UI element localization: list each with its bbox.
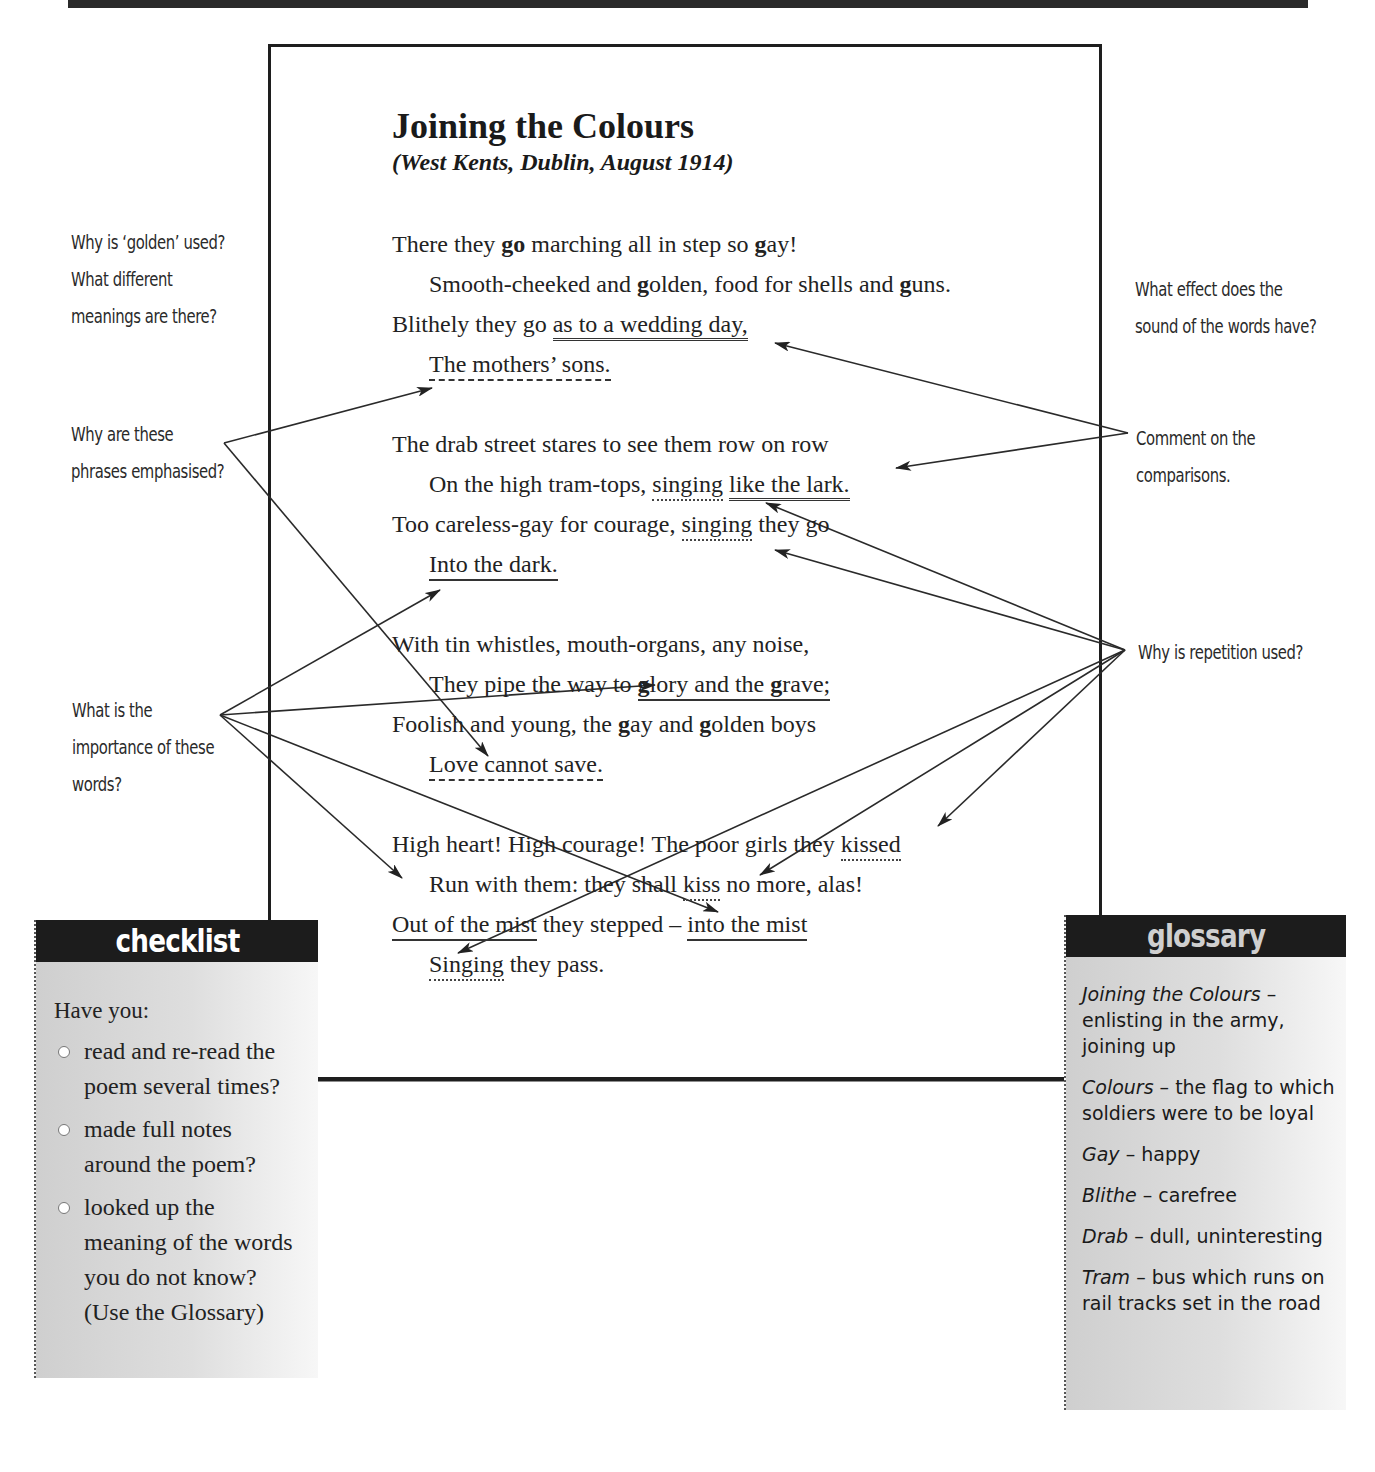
checklist-item[interactable]: made full notes around the poem? [36, 1112, 318, 1182]
poem-line: Run with them: they shall kiss no more, … [392, 864, 1092, 904]
annotation-comparisons: Comment on the comparisons. [1136, 420, 1255, 494]
annotation-line: Comment on the [1136, 420, 1255, 457]
annotation-line: sound of the words have? [1135, 308, 1316, 345]
poem-line: Into the dark. [392, 544, 1092, 584]
glossary-item: Tram – bus which runs on rail tracks set… [1082, 1264, 1336, 1316]
text: ay! [767, 231, 798, 257]
checklist-item-text: read and re-read the [84, 1034, 318, 1069]
glossary-definition: – carefree [1137, 1184, 1237, 1206]
text: Too careless-gay for courage, [392, 511, 682, 537]
checklist-intro: Have you: [36, 962, 318, 1026]
important-words: Into the dark. [429, 551, 558, 581]
emphasised-phrase: Love cannot save. [429, 751, 603, 781]
glossary-list: Joining the Colours – enlisting in the a… [1066, 957, 1346, 1316]
bold-text: g [900, 271, 912, 297]
text: They pipe the way to [429, 671, 638, 697]
poem-line: With tin whistles, mouth-organs, any noi… [392, 624, 1092, 664]
bold-text: g [770, 671, 782, 697]
glossary-term: Blithe [1082, 1184, 1137, 1206]
annotation-line: Why is repetition used? [1138, 634, 1303, 671]
annotation-importance: What is the importance of these words? [72, 692, 214, 803]
text: uns. [912, 271, 951, 297]
annotation-line: words? [72, 766, 214, 803]
stanza-2: The drab street stares to see them row o… [392, 424, 1092, 584]
bold-text: g [755, 231, 767, 257]
poem-line: Smooth-cheeked and golden, food for shel… [392, 264, 1092, 304]
annotation-repetition: Why is repetition used? [1138, 634, 1303, 671]
annotation-line: What effect does the [1135, 271, 1316, 308]
poem-line: Love cannot save. [392, 744, 1092, 784]
bold-text: g [637, 271, 649, 297]
checklist-item-text: made full notes [84, 1112, 318, 1147]
glossary-term: Gay [1082, 1143, 1120, 1165]
important-words: glory and the grave; [638, 671, 831, 701]
glossary-title: glossary [1147, 915, 1265, 957]
glossary-definition: – happy [1120, 1143, 1201, 1165]
poem: Joining the Colours (West Kents, Dublin,… [392, 104, 1092, 1024]
checklist-item-text: around the poem? [84, 1147, 318, 1182]
checklist-item-text: looked up the [84, 1190, 318, 1225]
checklist-item[interactable]: looked up the meaning of the words you d… [36, 1190, 318, 1330]
checklist-item-text: you do not know? [84, 1260, 318, 1295]
emphasised-phrase: The mothers’ sons. [429, 351, 611, 381]
annotation-sound: What effect does the sound of the words … [1135, 271, 1316, 345]
poem-line: The mothers’ sons. [392, 344, 1092, 384]
annotation-line: Why are these [71, 416, 224, 453]
glossary-item: Gay – happy [1082, 1141, 1336, 1167]
repetition-underline: Singing [429, 951, 504, 981]
radio-bullet-icon[interactable] [58, 1046, 70, 1058]
comparison-underline: as to a wedding day, [553, 311, 748, 341]
text: olden boys [711, 711, 816, 737]
top-bar [68, 0, 1308, 8]
poem-title: Joining the Colours [392, 104, 1092, 148]
radio-bullet-icon[interactable] [58, 1202, 70, 1214]
annotation-line: What is the [72, 692, 214, 729]
glossary-item: Drab – dull, uninteresting [1082, 1223, 1336, 1249]
text: The drab street stares to see them row o… [392, 431, 829, 457]
stanza-3: With tin whistles, mouth-organs, any noi… [392, 624, 1092, 784]
text: lory and the [650, 671, 771, 697]
glossary-definition: – dull, uninteresting [1128, 1225, 1323, 1247]
text: they pass. [504, 951, 605, 977]
repetition-underline: singing [682, 511, 753, 541]
annotation-line: comparisons. [1136, 457, 1255, 494]
glossary-item: Joining the Colours – enlisting in the a… [1082, 981, 1336, 1059]
checklist-item-text: poem several times? [84, 1069, 318, 1104]
annotation-line: Why is ‘golden’ used? [71, 224, 225, 261]
annotation-line: importance of these [72, 729, 214, 766]
stanza-1: There they go marching all in step so ga… [392, 224, 1092, 384]
comparison-underline: like the lark. [729, 471, 850, 501]
poem-line: There they go marching all in step so ga… [392, 224, 1092, 264]
bold-text: g [638, 671, 650, 697]
radio-bullet-icon[interactable] [58, 1124, 70, 1136]
text: On the high tram-tops, [429, 471, 652, 497]
glossary-term: Joining the Colours [1082, 983, 1261, 1005]
poem-line: Too careless-gay for courage, singing th… [392, 504, 1092, 544]
repetition-underline: kiss [683, 871, 720, 901]
poem-line: Blithely they go as to a wedding day, [392, 304, 1092, 344]
glossary-term: Drab [1082, 1225, 1128, 1247]
text: There they [392, 231, 501, 257]
poem-line: High heart! High courage! The poor girls… [392, 824, 1092, 864]
text: Run with them: they shall [429, 871, 683, 897]
bold-text: g [699, 711, 711, 737]
repetition-underline: singing [652, 471, 723, 501]
glossary-item: Colours – the flag to which soldiers wer… [1082, 1074, 1336, 1126]
poem-line: They pipe the way to glory and the grave… [392, 664, 1092, 704]
repetition-underline: kissed [841, 831, 901, 861]
poem-line: Foolish and young, the gay and golden bo… [392, 704, 1092, 744]
important-words: into the mist [687, 911, 807, 941]
text: they stepped – [537, 911, 688, 937]
checklist-item[interactable]: read and re-read the poem several times? [36, 1034, 318, 1104]
annotation-line: meanings are there? [71, 298, 225, 335]
poem-line: Singing they pass. [392, 944, 1092, 984]
text: they go [752, 511, 829, 537]
poem-line: On the high tram-tops, singing like the … [392, 464, 1092, 504]
important-words: Out of the mist [392, 911, 537, 941]
text: Foolish and young, the [392, 711, 618, 737]
text: Blithely they go [392, 311, 553, 337]
checklist-title: checklist [115, 920, 239, 962]
checklist-box: checklist Have you: read and re-read the… [34, 920, 318, 1378]
stanza-4: High heart! High courage! The poor girls… [392, 824, 1092, 984]
bold-text: g [618, 711, 630, 737]
